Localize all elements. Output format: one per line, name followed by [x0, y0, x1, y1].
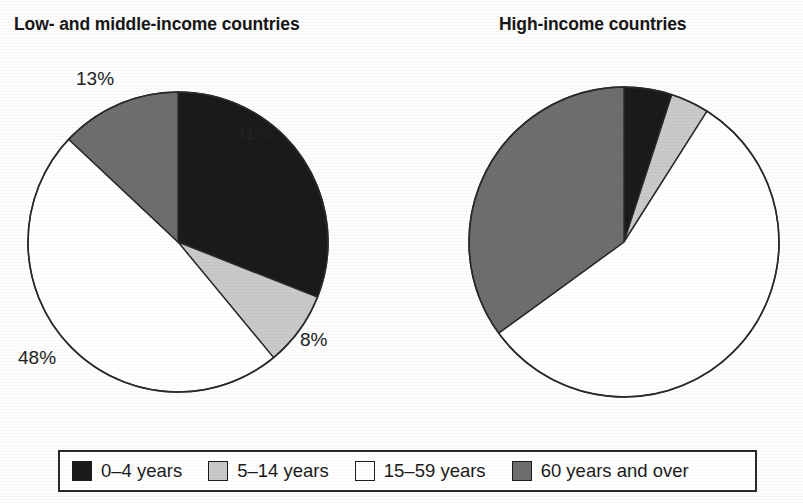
legend-swatch-0-4 — [72, 461, 92, 481]
pie-left-label-5-14: 8% — [300, 329, 327, 351]
legend-label-15-59: 15–59 years — [384, 460, 486, 482]
legend-swatch-60-up — [512, 461, 532, 481]
pie-left-label-15-59: 48% — [18, 347, 56, 369]
chart-legend: 0–4 years 5–14 years 15–59 years 60 year… — [58, 450, 757, 492]
figure-canvas: Low- and middle-income countries High-in… — [0, 0, 803, 503]
legend-item-5-14: 5–14 years — [208, 460, 329, 482]
pie-left-label-0-4: 31% — [234, 123, 272, 145]
legend-label-60-over: 60 years and over — [541, 460, 689, 482]
legend-label-0-4: 0–4 years — [101, 460, 182, 482]
pie-left-svg — [0, 0, 400, 445]
legend-swatch-5-14 — [208, 461, 228, 481]
pie-right-svg — [400, 0, 803, 445]
legend-item-60-over: 60 years and over — [512, 460, 689, 482]
legend-swatch-15-59 — [355, 461, 375, 481]
pie-left-label-60-over: 13% — [76, 68, 114, 90]
legend-item-15-59: 15–59 years — [355, 460, 486, 482]
legend-item-0-4: 0–4 years — [72, 460, 182, 482]
pie-chart-high-income: 5% 4% 35% 56% — [400, 0, 803, 445]
pie-chart-low-middle-income: 13% 31% 8% 48% — [0, 0, 400, 445]
pie-left-slices — [28, 92, 328, 392]
pie-right-slices — [469, 87, 779, 397]
legend-label-5-14: 5–14 years — [237, 460, 329, 482]
